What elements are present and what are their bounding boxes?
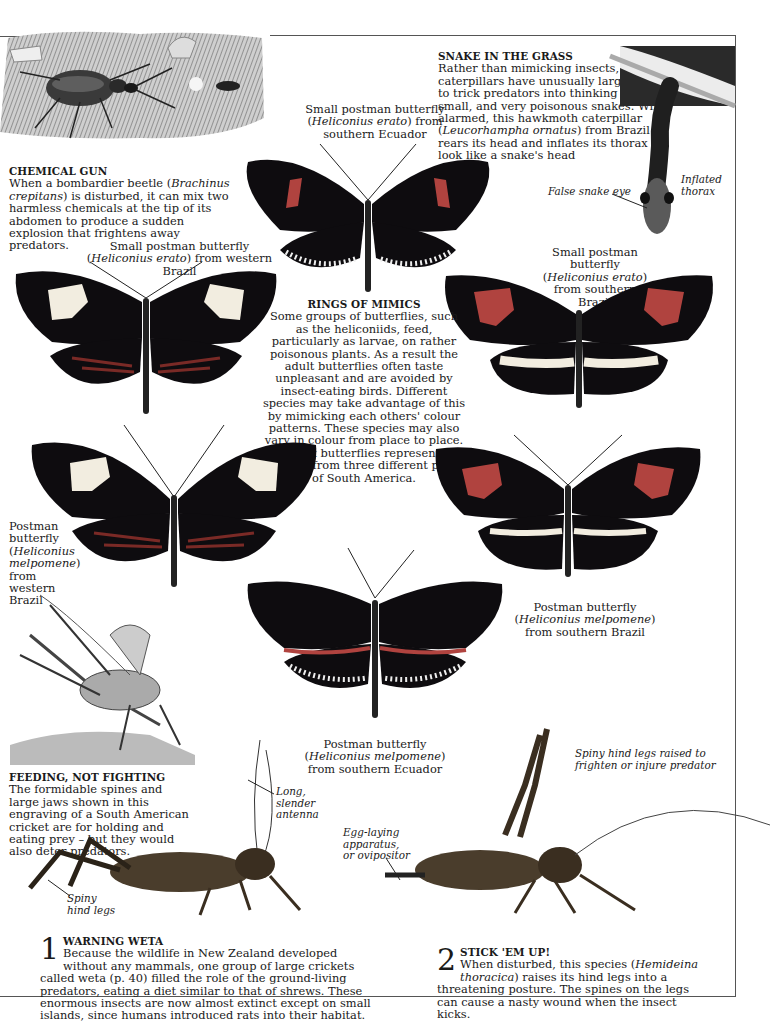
inflated-thorax-label: Inflated thorax <box>681 174 721 197</box>
warning-weta-text: Because the wildlife in New Zealand deve… <box>40 946 371 1022</box>
section-number: 1 <box>40 936 59 962</box>
bombardier-beetle-engraving <box>0 28 268 140</box>
spiny-hind-legs-label: Spiny hind legs <box>67 893 117 916</box>
page-frame-top <box>270 35 735 36</box>
section-number: 2 <box>437 947 456 973</box>
spiny-raised-legs-label: Spiny hind legs raised to frighten or in… <box>575 748 725 771</box>
ovipositor-label: Egg-laying apparatus, or ovipositor <box>343 827 413 862</box>
butterfly-melpomene-ecuador <box>244 548 506 723</box>
caption-melpomene-south-brazil: Postman butterfly (Heliconius melpomene)… <box>510 601 660 638</box>
antenna-label: Long, slender antenna <box>276 786 346 821</box>
stick-em-up-section: 2 STICK 'EM UP! When disturbed, this spe… <box>437 946 699 1020</box>
butterfly-erato-west-brazil <box>12 262 280 420</box>
butterfly-erato-south-brazil <box>440 270 718 410</box>
warning-weta-section: 1 WARNING WETA Because the wildlife in N… <box>40 935 375 1022</box>
caption-melpomene-west-brazil: Postman butterfly (Heliconius melpomene)… <box>9 520 77 607</box>
caption-erato-ecuador: Small postman butterfly (Heliconius erat… <box>300 103 450 140</box>
